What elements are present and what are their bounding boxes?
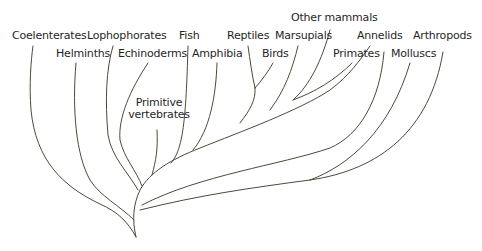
branch-molluscs: [310, 63, 410, 180]
branch-amphibia: [193, 63, 217, 150]
label-marsupials: Marsupials: [275, 30, 332, 42]
branch-arthropods: [310, 52, 443, 180]
label-other-mammals: Other mammals: [291, 12, 378, 24]
branch-echinoderms: [120, 63, 148, 186]
label-lophophorates: Lophophorates: [87, 30, 167, 42]
branch-molluscs-arthropods-stem: [140, 180, 310, 210]
label-primitive-vertebrates-line2: vertebrates: [127, 109, 191, 121]
label-molluscs: Molluscs: [391, 48, 436, 60]
label-birds: Birds: [262, 48, 289, 60]
trunk: [134, 46, 370, 237]
branch-primitive-vertebrates: [152, 130, 157, 175]
label-annelids: Annelids: [357, 30, 402, 42]
branch-reptiles-birds-stem: [240, 88, 255, 123]
label-fish: Fish: [179, 30, 200, 42]
branch-birds: [255, 63, 273, 88]
branch-helminths: [75, 63, 134, 220]
label-primates: Primates: [333, 48, 380, 60]
label-amphibia: Amphibia: [192, 48, 242, 60]
label-arthropods: Arthropods: [413, 30, 472, 42]
label-helminths: Helminths: [56, 48, 110, 60]
branch-reptiles: [248, 46, 255, 88]
label-reptiles: Reptiles: [227, 30, 269, 42]
label-coelenterates: Coelenterates: [12, 30, 87, 42]
label-primitive-vertebrates: Primitive vertebrates: [127, 97, 191, 121]
label-echinoderms: Echinoderms: [118, 48, 187, 60]
